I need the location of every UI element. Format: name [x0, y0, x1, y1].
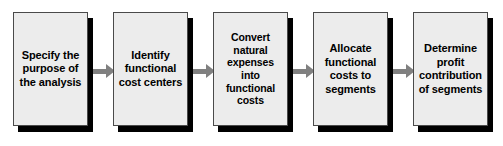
- process-step-5-label: Determine profit contribution of segment…: [414, 42, 487, 96]
- process-step-3-body: Convert natural expenses into functional…: [213, 12, 288, 126]
- arrow-right-icon-2: [193, 64, 215, 78]
- process-step-2-body: Identify functional cost centers: [113, 12, 188, 126]
- process-step-4-body: Allocate functional costs to segments: [313, 12, 388, 126]
- process-flow-diagram: Specify the purpose of the analysis Iden…: [0, 0, 503, 146]
- arrow-right-icon-1: [93, 64, 115, 78]
- process-step-2-label: Identify functional cost centers: [114, 49, 187, 90]
- process-step-4-label: Allocate functional costs to segments: [314, 42, 387, 96]
- arrow-shaft-3: [293, 69, 307, 74]
- arrow-shaft-4: [393, 69, 407, 74]
- process-step-2: Identify functional cost centers: [113, 12, 188, 126]
- arrow-right-icon-3: [293, 64, 315, 78]
- process-step-3-label: Convert natural expenses into functional…: [214, 31, 287, 107]
- arrow-right-icon-4: [393, 64, 415, 78]
- process-step-3: Convert natural expenses into functional…: [213, 12, 288, 126]
- process-step-4: Allocate functional costs to segments: [313, 12, 388, 126]
- process-step-5-body: Determine profit contribution of segment…: [413, 12, 488, 126]
- process-step-1-body: Specify the purpose of the analysis: [13, 12, 88, 126]
- process-step-1: Specify the purpose of the analysis: [13, 12, 88, 126]
- arrow-shaft-1: [93, 69, 107, 74]
- process-step-1-label: Specify the purpose of the analysis: [14, 49, 87, 90]
- process-step-5: Determine profit contribution of segment…: [413, 12, 488, 126]
- arrow-shaft-2: [193, 69, 207, 74]
